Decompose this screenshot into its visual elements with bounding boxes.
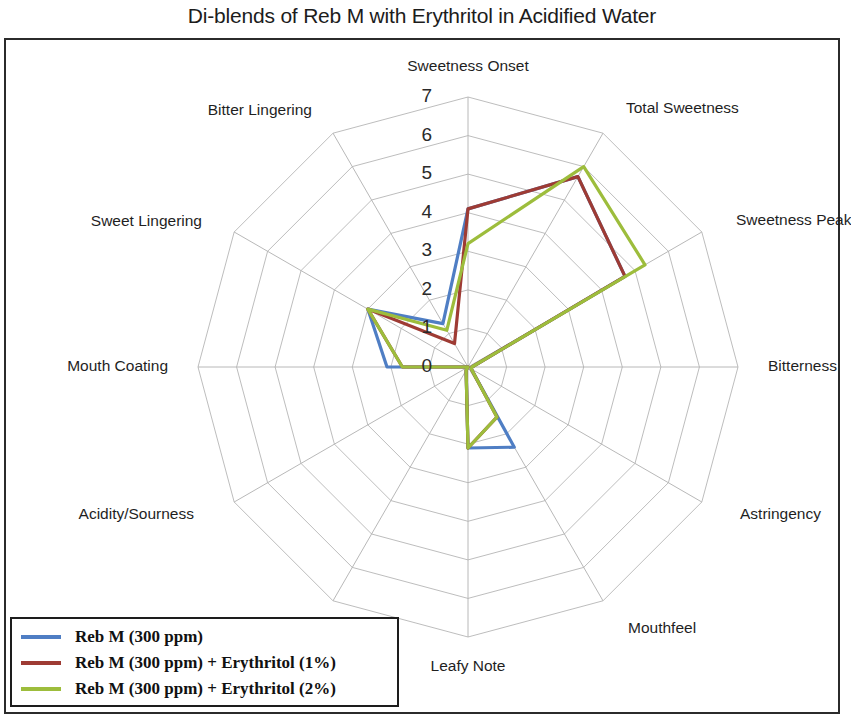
chart-legend: Reb M (300 ppm) Reb M (300 ppm) + Erythr… — [10, 617, 399, 707]
axis-label-bitterness: Bitterness — [768, 357, 837, 375]
legend-swatch-series-3 — [21, 687, 61, 691]
radial-tick-label-1: 1 — [410, 316, 432, 338]
axis-label-total-sweetness: Total Sweetness — [626, 99, 739, 117]
legend-swatch-series-1 — [21, 635, 61, 639]
legend-item: Reb M (300 ppm) — [12, 624, 397, 650]
chart-title: Di-blends of Reb M with Erythritol in Ac… — [0, 4, 844, 28]
axis-label-sweetness-peak: Sweetness Peak — [736, 211, 851, 229]
axis-label-astringency: Astringency — [740, 505, 821, 523]
legend-label-series-3: Reb M (300 ppm) + Erythritol (2%) — [75, 679, 336, 699]
legend-label-series-2: Reb M (300 ppm) + Erythritol (1%) — [75, 653, 336, 673]
axis-label-mouthfeel: Mouthfeel — [628, 619, 696, 637]
legend-item: Reb M (300 ppm) + Erythritol (1%) — [12, 650, 397, 676]
axis-label-sweet-lingering: Sweet Lingering — [0, 212, 202, 230]
legend-label-series-1: Reb M (300 ppm) — [75, 627, 203, 647]
axis-label-acidity-sourness: Acidity/Sourness — [0, 505, 194, 523]
axis-label-bitter-lingering: Bitter Lingering — [0, 101, 312, 119]
axis-label-sweetness-onset: Sweetness Onset — [407, 57, 528, 75]
radial-tick-label-4: 4 — [410, 201, 432, 223]
radial-tick-label-6: 6 — [410, 124, 432, 146]
legend-item: Reb M (300 ppm) + Erythritol (2%) — [12, 676, 397, 702]
legend-swatch-series-2 — [21, 661, 61, 665]
axis-label-leafy-note: Leafy Note — [431, 657, 506, 675]
axis-label-mouth-coating: Mouth Coating — [0, 357, 168, 375]
radial-tick-label-2: 2 — [410, 278, 432, 300]
radial-tick-label-3: 3 — [410, 239, 432, 261]
radial-tick-label-7: 7 — [410, 85, 432, 107]
radial-tick-label-0: 0 — [410, 355, 432, 377]
radial-tick-label-5: 5 — [410, 162, 432, 184]
